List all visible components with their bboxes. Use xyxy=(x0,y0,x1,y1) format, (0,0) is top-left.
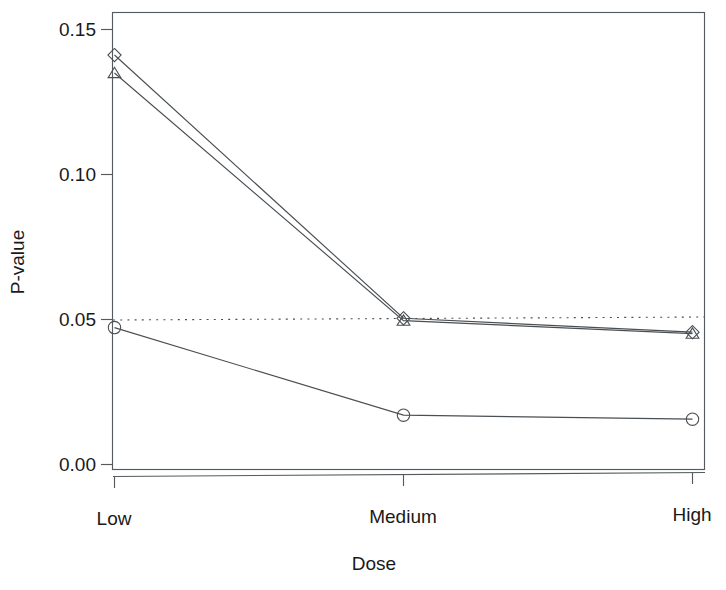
p-value-vs-dose-chart: 0.15 0.10 0.05 0.00 P-value Low Medium H… xyxy=(0,0,726,590)
y-tick-label-1: 0.05 xyxy=(59,309,96,330)
y-axis-title: P-value xyxy=(7,230,28,294)
x-tick-label-medium: Medium xyxy=(369,506,437,527)
y-tick-label-3: 0.15 xyxy=(59,19,96,40)
x-tick-label-low: Low xyxy=(97,508,132,529)
x-axis-title: Dose xyxy=(352,553,396,574)
x-tick-label-high: High xyxy=(672,504,711,525)
y-tick-label-2: 0.10 xyxy=(59,164,96,185)
y-tick-label-0: 0.00 xyxy=(59,454,96,475)
chart-background xyxy=(0,0,726,590)
